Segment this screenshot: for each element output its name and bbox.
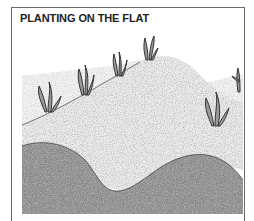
plant-icon (144, 36, 158, 60)
planting-illustration (0, 0, 254, 221)
